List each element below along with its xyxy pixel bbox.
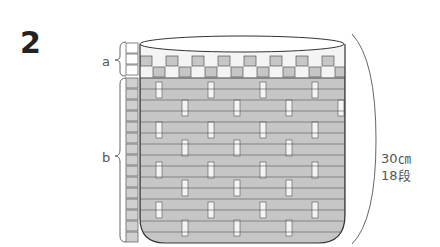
woven-body — [140, 44, 347, 244]
height-bracket — [352, 34, 376, 244]
rim — [140, 36, 344, 52]
brace-b — [115, 78, 126, 242]
lower-weave — [140, 78, 345, 244]
basket-weave-diagram — [0, 0, 440, 247]
brace-a — [115, 42, 126, 76]
row-ruler — [126, 43, 138, 242]
